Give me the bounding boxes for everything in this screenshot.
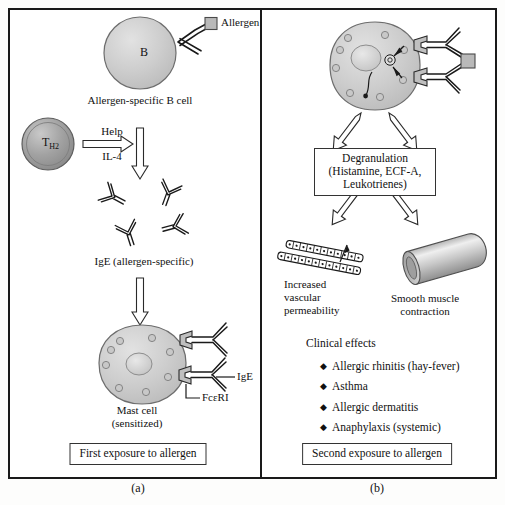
b-cell-letter: B	[140, 46, 148, 59]
vascular-line1: Increased	[284, 278, 326, 291]
th2-label-sub: H2	[49, 142, 59, 151]
ige-receptor-label: IgE	[237, 370, 253, 383]
clinical-effect-text: Allergic dermatitis	[332, 401, 418, 413]
clinical-effects-list: Clinical effects ◆Allergic rhinitis (hay…	[306, 334, 460, 439]
panel-a-letter: (a)	[131, 481, 144, 496]
clinical-effects-heading: Clinical effects	[306, 334, 460, 354]
th2-cell-label: TH2	[42, 136, 59, 153]
bullet-diamond-icon: ◆	[320, 398, 332, 418]
first-exposure-box: First exposure to allergen	[70, 443, 207, 465]
clinical-effect-text: Allergic rhinitis (hay-fever)	[332, 360, 460, 372]
clinical-effect-text: Anaphylaxis (systemic)	[332, 421, 441, 433]
panel-b: Degranulation (Histamine, ECF-A, Leukotr…	[262, 0, 497, 479]
list-item: ◆Asthma	[306, 377, 460, 398]
muscle-line2: contraction	[400, 305, 449, 318]
degranulation-box: Degranulation (Histamine, ECF-A, Leukotr…	[314, 148, 436, 196]
muscle-line1: Smooth muscle	[391, 292, 459, 305]
clinical-effect-text: Asthma	[332, 380, 368, 392]
bullet-diamond-icon: ◆	[320, 377, 332, 397]
vascular-line3: permeability	[284, 304, 340, 317]
il4-label: IL-4	[102, 150, 122, 163]
bullet-diamond-icon: ◆	[320, 357, 332, 377]
ige-caption: IgE (allergen-specific)	[94, 255, 193, 268]
allergen-label-a: Allergen	[221, 16, 259, 29]
b-cell-caption: Allergen-specific B cell	[88, 94, 193, 107]
mast-cell-caption-line1: Mast cell	[117, 404, 158, 417]
list-item: ◆Allergic rhinitis (hay-fever)	[306, 357, 460, 378]
panel-b-letter: (b)	[370, 481, 384, 496]
list-item: ◆Allergic dermatitis	[306, 398, 460, 419]
bullet-diamond-icon: ◆	[320, 418, 332, 438]
second-exposure-box: Second exposure to allergen	[302, 443, 452, 465]
vascular-line2: vascular	[284, 291, 321, 304]
allergy-figure: Allergen B Allergen-specific B cell TH2 …	[0, 0, 505, 505]
degranulation-line2: (Histamine, ECF-A, Leukotrienes)	[329, 165, 422, 190]
panel-a: Allergen B Allergen-specific B cell TH2 …	[8, 0, 260, 479]
fceri-label: FcεRI	[202, 391, 229, 404]
degranulation-line1: Degranulation	[342, 152, 408, 164]
help-label: Help	[101, 125, 122, 138]
list-item: ◆Anaphylaxis (systemic)	[306, 418, 460, 439]
mast-cell-caption-line2: (sensitized)	[112, 417, 163, 430]
